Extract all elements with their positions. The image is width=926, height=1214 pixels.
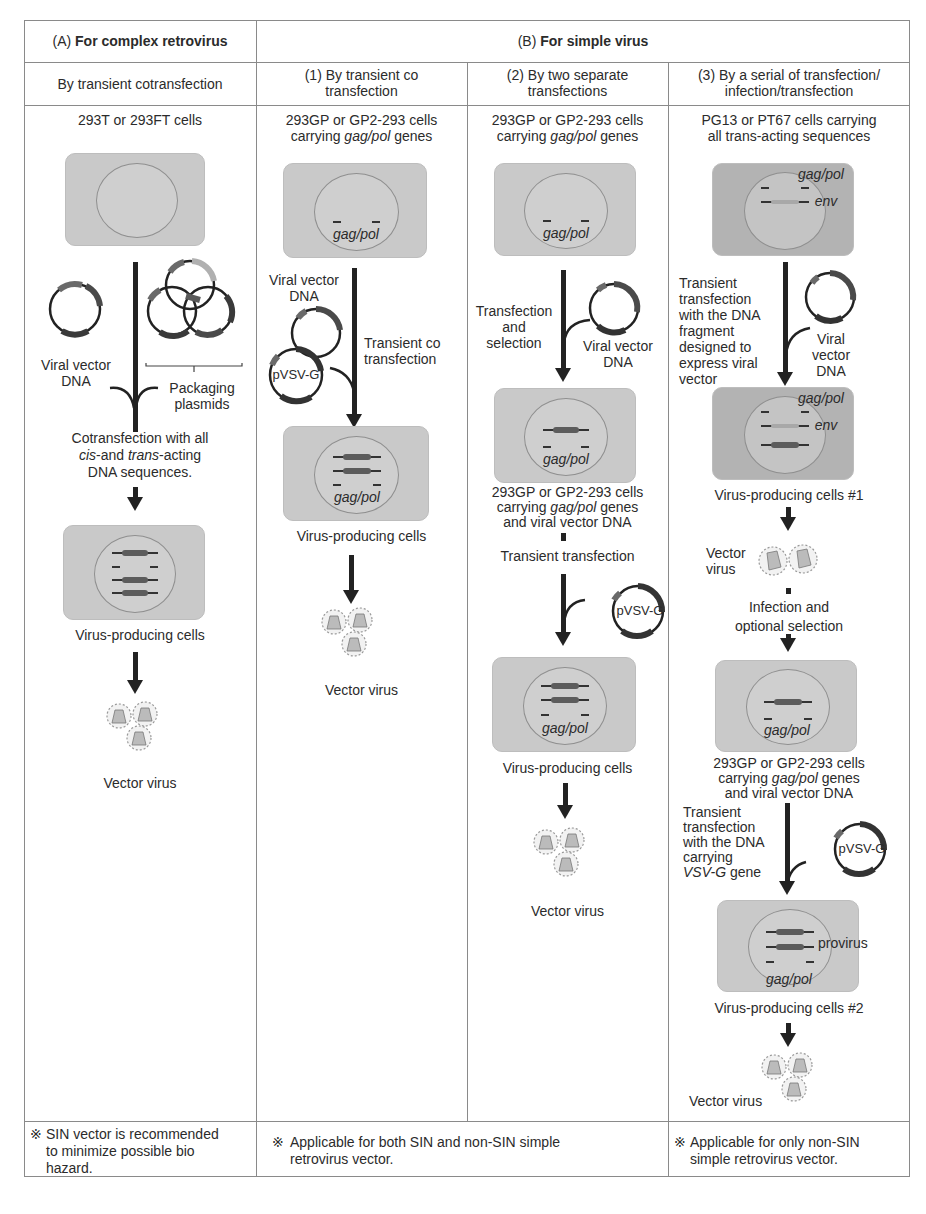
col-b3-viral-vector-label: Viral vector DNA: [806, 331, 856, 379]
note-line: to minimize possible bio: [46, 1143, 252, 1160]
col-b2-transient-label: Transient transfection: [467, 548, 668, 564]
label-line: plasmids: [160, 396, 244, 412]
gag-pol-label: gag/pol: [716, 722, 858, 738]
label-line: DNA: [806, 363, 856, 379]
provirus-gene: [112, 579, 158, 581]
gene-term: gag/pol: [344, 128, 390, 144]
label-line: carrying gag/pol genes: [668, 771, 910, 786]
col-b2-producing-label: Virus-producing cells: [467, 760, 668, 776]
label-line: cis-and trans-acting: [24, 447, 256, 464]
provirus-gene: [112, 552, 158, 554]
label-line: with the DNA: [683, 835, 783, 850]
header-a-title: For complex retrovirus: [75, 33, 228, 49]
row-divider-footer: [24, 1121, 910, 1122]
col-b3-vector-virus-icon-1: [755, 543, 825, 583]
gag-pol-gene-right: [801, 411, 809, 413]
gag-pol-gene-left: [543, 446, 551, 448]
label-line: Packaging: [160, 380, 244, 396]
col-b2-arrow-stub: [561, 533, 566, 541]
col-b3-vector-virus-label-2: Vector virus: [689, 1093, 789, 1109]
label-line: 293GP or GP2-293 cells: [467, 112, 668, 128]
label-part: carrying: [497, 128, 551, 144]
note-line: Applicable for only non-SIN: [690, 1134, 908, 1151]
col-a-cotransfection-label: Cotransfection with all cis-and trans-ac…: [24, 430, 256, 481]
label-line: 293GP or GP2-293 cells: [256, 112, 467, 128]
note-line: simple retrovirus vector.: [690, 1151, 908, 1168]
label-line: carrying: [683, 850, 783, 865]
gag-pol-label: gag/pol: [493, 720, 637, 736]
col-a-vector-virus-icon: [105, 702, 165, 762]
subheader-b2-line2: transfections: [467, 83, 668, 99]
gag-pol-gene-right: [581, 714, 589, 716]
provirus-gene: [766, 931, 814, 933]
gag-pol-label: gag/pol: [791, 166, 851, 182]
label-line: Viral vector: [258, 272, 350, 288]
provirus-gene: [766, 946, 814, 948]
label-line: fragment: [679, 323, 779, 339]
gene-term: gag/pol: [550, 499, 596, 515]
gag-pol-gene-left: [541, 714, 549, 716]
col-a-arrow-main: [133, 262, 138, 432]
env-label: env: [811, 417, 841, 433]
gag-pol-label: gag/pol: [284, 489, 430, 505]
label-line: and viral vector DNA: [668, 786, 910, 801]
provirus-gene: [541, 685, 589, 687]
provirus-gene: [761, 444, 809, 446]
label-part: genes: [390, 128, 432, 144]
label-line: and: [469, 319, 559, 335]
reference-mark-icon: ※: [272, 1134, 284, 1151]
gag-pol-gene-right: [806, 961, 814, 963]
note-line: Applicable for both SIN and non-SIN simp…: [290, 1134, 662, 1151]
gene-term: gag/pol: [772, 770, 818, 786]
subheader-b1-line1: (1) By transient co: [256, 67, 467, 83]
label-line: and viral vector DNA: [467, 515, 668, 530]
label-line: Transient: [683, 805, 783, 820]
label-line: Viral: [806, 331, 856, 347]
col-b2-vector-virus-icon: [532, 828, 592, 888]
header-b: (B) For simple virus: [256, 33, 910, 49]
label-line: Transient co: [364, 335, 464, 351]
col-b1-transient-label: Transient co transfection: [364, 335, 464, 367]
col-b3-transient-label: Transient transfection with the DNA frag…: [679, 275, 779, 387]
label-line: transfection: [679, 291, 779, 307]
gag-pol-label: gag/pol: [495, 451, 637, 467]
col-b2-arrow-3: [563, 783, 568, 807]
gag-pol-label: gag/pol: [495, 225, 637, 241]
col-b2-transfection-label: Transfection and selection: [469, 303, 559, 351]
header-a-prefix: (A): [52, 33, 75, 49]
label-line: Viral vector: [570, 338, 666, 354]
env-gene: [761, 201, 809, 203]
col-b1-producing-label: Virus-producing cells: [256, 528, 467, 544]
provirus-gene: [333, 470, 381, 472]
gag-pol-label: gag/pol: [718, 971, 860, 987]
col-b1-arrow-main: [352, 268, 357, 416]
provirus-gene: [764, 701, 812, 703]
col-divider-a: [256, 20, 257, 1177]
label-part: -acting: [159, 447, 201, 463]
col-b3-arrow-2: [786, 507, 791, 519]
gag-pol-gene-right: [373, 484, 381, 486]
col-b3-provirus-label: provirus: [818, 935, 898, 951]
footer-note-a: ※ SIN vector is recommended to minimize …: [30, 1126, 252, 1177]
col-a-cell-empty: [65, 153, 205, 246]
gag-pol-gene-left: [543, 220, 551, 222]
col-b1-vector-virus-label: Vector virus: [256, 682, 467, 698]
gag-pol-gene-left: [761, 411, 769, 413]
label-line: transfection: [364, 351, 464, 367]
col-a-producing-label: Virus-producing cells: [24, 627, 256, 643]
header-b-title: For simple virus: [540, 33, 648, 49]
label-line: with the DNA: [679, 307, 779, 323]
label-line: DNA: [570, 354, 666, 370]
label-part: genes: [596, 499, 638, 515]
col-b3-arrow-3: [786, 634, 791, 640]
footer-note-b3: ※ Applicable for only non-SIN simple ret…: [674, 1134, 908, 1168]
label-line: Viral vector: [28, 357, 124, 373]
col-b2-arrow-2: [561, 574, 566, 634]
subheader-b3: (3) By a serial of transfection/ infecti…: [668, 67, 910, 99]
reference-mark-icon: ※: [674, 1134, 686, 1151]
gag-pol-gene-right: [804, 718, 812, 720]
col-divider-b1: [467, 62, 468, 1121]
col-a-arrow-2: [133, 487, 138, 499]
col-b2-cell-gagpol: gag/pol: [494, 163, 636, 256]
label-line: vector: [806, 347, 856, 363]
